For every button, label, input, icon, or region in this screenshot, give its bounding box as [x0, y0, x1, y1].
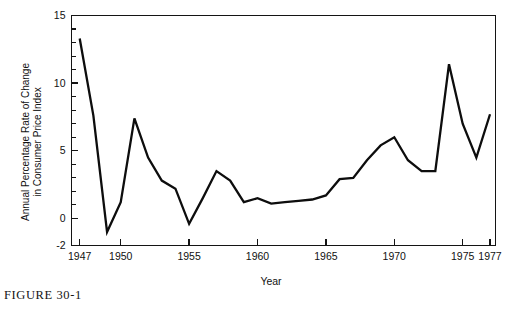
x-tick-label: 1950	[109, 250, 133, 262]
y-tick-label: -2	[56, 239, 65, 251]
cpi-line-chart: -2051015 1947195019551960196519701975197…	[0, 0, 524, 313]
y-tick-label: 10	[54, 77, 66, 89]
y-tick-label: 5	[60, 144, 66, 156]
y-tick-label: 0	[60, 212, 66, 224]
x-axis-title: Year	[260, 275, 282, 287]
x-axis-ticks: 19471950195519601965197019751977	[68, 239, 502, 262]
x-tick-label: 1960	[246, 250, 270, 262]
x-tick-label: 1965	[314, 250, 338, 262]
y-axis-title-line2: in Consumer Price Index	[32, 87, 43, 197]
figure-caption: FIGURE 30-1	[4, 288, 82, 303]
figure-container: -2051015 1947195019551960196519701975197…	[0, 0, 524, 313]
axis-label-group: Year Annual Percentage Rate of Change in…	[20, 63, 282, 287]
y-axis-ticks: -2051015	[54, 9, 78, 251]
x-tick-label: 1977	[478, 250, 502, 262]
x-tick-label: 1947	[68, 250, 92, 262]
chart-axes	[72, 16, 496, 246]
y-tick-label: 15	[54, 9, 66, 21]
plot-frame	[72, 16, 496, 246]
x-tick-label: 1970	[383, 250, 407, 262]
x-tick-label: 1955	[177, 250, 201, 262]
x-tick-label: 1975	[451, 250, 475, 262]
data-series-group	[80, 39, 490, 232]
y-axis-title-line1: Annual Percentage Rate of Change	[20, 63, 31, 221]
cpi-change-line	[80, 39, 490, 232]
